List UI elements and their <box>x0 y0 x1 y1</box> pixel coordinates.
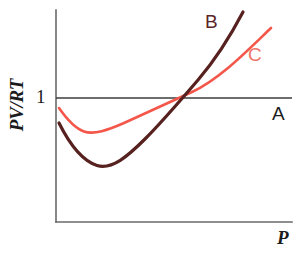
y-axis-title: PV/RT <box>6 65 30 145</box>
chart-plot-area <box>0 0 308 254</box>
y-axis-tick-label-one: 1 <box>36 87 46 106</box>
compressibility-factor-chart: 1 PV/RT P A B C <box>0 0 308 254</box>
x-axis-title: P <box>277 228 289 247</box>
y-axis-title-text: PV/RT <box>6 79 27 131</box>
curve-b-path <box>59 12 243 166</box>
curve-label-a: A <box>272 104 285 123</box>
curve-label-b: B <box>205 12 218 31</box>
curve-label-c: C <box>248 45 262 64</box>
